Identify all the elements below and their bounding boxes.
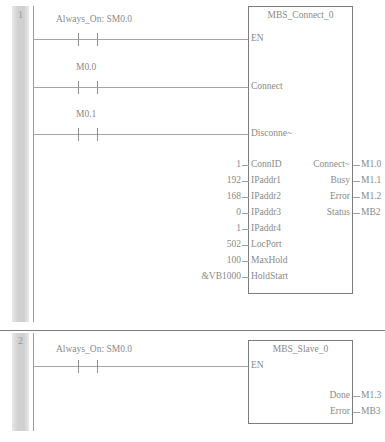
- pin-stub-ipaddr2: [242, 197, 249, 198]
- rung-separator: [0, 330, 385, 331]
- pin-maxhold: MaxHold: [251, 255, 287, 265]
- contact-label-m00: M0.0: [76, 62, 96, 72]
- contact-m01-left[interactable]: [78, 128, 79, 141]
- pin-done: Done: [280, 390, 350, 400]
- pin-busy: Busy: [280, 175, 350, 185]
- operand-ipaddr1[interactable]: 192: [188, 175, 241, 185]
- contact-m00-right[interactable]: [97, 81, 98, 94]
- pin-holdstart: HoldStart: [251, 271, 288, 281]
- pin-stub-connid: [242, 165, 249, 166]
- pin-connid: ConnID: [251, 159, 282, 169]
- branch-wire-2: [33, 87, 248, 88]
- pin-en-rung1: EN: [251, 33, 264, 43]
- pin-connect: Connect: [251, 81, 283, 91]
- pin-locport: LocPort: [251, 239, 282, 249]
- pin-error-rung1: Error: [280, 191, 350, 201]
- operand-connect-status[interactable]: M1.0: [361, 159, 381, 169]
- operand-ipaddr4[interactable]: 1: [188, 223, 241, 233]
- pin-stub-ipaddr3: [242, 213, 249, 214]
- pin-stub-locport: [242, 245, 249, 246]
- branch-wire-1: [33, 39, 248, 40]
- pin-stub-ipaddr4: [242, 229, 249, 230]
- operand-locport[interactable]: 502: [188, 239, 241, 249]
- contact-sm00-rung1-left[interactable]: [78, 33, 79, 46]
- pin-ipaddr3: IPaddr3: [251, 207, 281, 217]
- operand-busy[interactable]: M1.1: [361, 175, 381, 185]
- operand-status[interactable]: MB2: [361, 207, 381, 217]
- operand-error-rung2[interactable]: MB3: [361, 406, 381, 416]
- pin-stub-maxhold: [242, 261, 249, 262]
- contact-label-m01: M0.1: [76, 109, 96, 119]
- operand-error-rung1[interactable]: M1.2: [361, 191, 381, 201]
- branch-wire-rung2: [33, 366, 248, 367]
- pin-stub-ipaddr1: [242, 181, 249, 182]
- pin-en-rung2: EN: [251, 360, 264, 370]
- operand-holdstart[interactable]: &VB1000: [178, 271, 241, 281]
- pin-connect-status: Connect~: [280, 159, 350, 169]
- pin-stub-holdstart: [242, 277, 249, 278]
- operand-maxhold[interactable]: 100: [188, 255, 241, 265]
- operand-done[interactable]: M1.3: [361, 390, 381, 400]
- contact-sm00-rung2-left[interactable]: [78, 360, 79, 373]
- branch-wire-3: [33, 134, 248, 135]
- operand-ipaddr3[interactable]: 0: [188, 207, 241, 217]
- contact-sm00-rung2-right[interactable]: [97, 360, 98, 373]
- contact-label-sm00-rung2: Always_On: SM0.0: [56, 344, 132, 354]
- pin-ipaddr4: IPaddr4: [251, 223, 281, 233]
- pin-ipaddr1: IPaddr1: [251, 175, 281, 185]
- pin-stub-connect-status: [353, 165, 360, 166]
- pin-disconnect: Disconne~: [251, 128, 292, 138]
- rung-number-1: 1: [12, 8, 29, 22]
- contact-m00-left[interactable]: [78, 81, 79, 94]
- power-rail-2: [33, 333, 34, 431]
- power-rail-1: [33, 6, 34, 322]
- rung-gutter-1[interactable]: [12, 6, 29, 322]
- contact-sm00-rung1-right[interactable]: [97, 33, 98, 46]
- function-block-mbs-connect[interactable]: MBS_Connect_0: [248, 6, 353, 294]
- pin-error-rung2: Error: [280, 406, 350, 416]
- pin-stub-error-rung1: [353, 197, 360, 198]
- function-block-title-mbs-slave: MBS_Slave_0: [249, 344, 352, 354]
- ladder-diagram-canvas: 1 Always_On: SM0.0 M0.0 M0.1 MBS_Connect…: [0, 0, 385, 442]
- function-block-title-mbs-connect: MBS_Connect_0: [249, 10, 352, 20]
- contact-label-sm00-rung1: Always_On: SM0.0: [56, 14, 132, 24]
- pin-stub-busy: [353, 181, 360, 182]
- operand-ipaddr2[interactable]: 168: [188, 191, 241, 201]
- contact-m01-right[interactable]: [97, 128, 98, 141]
- rung-number-2: 2: [12, 334, 29, 348]
- pin-stub-status: [353, 213, 360, 214]
- pin-status: Status: [280, 207, 350, 217]
- pin-ipaddr2: IPaddr2: [251, 191, 281, 201]
- operand-connid[interactable]: 1: [188, 159, 241, 169]
- pin-stub-done: [353, 396, 360, 397]
- pin-stub-error-rung2: [353, 412, 360, 413]
